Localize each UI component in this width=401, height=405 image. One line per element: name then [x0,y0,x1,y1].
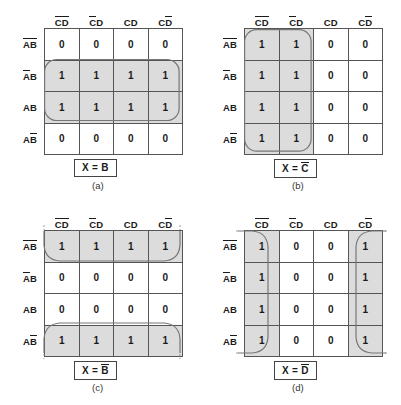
table-row: AB 1 0 0 1 [216,231,383,263]
kmap-a-cell-1-1[interactable]: 1 [79,60,114,92]
kmap-b-cell-3-3[interactable]: 0 [348,123,383,155]
kmap-a-cell-3-2[interactable]: 0 [114,123,149,155]
kmap-b-cell-1-2[interactable]: 0 [314,60,349,92]
kmap-b-col-header-2: CD [314,12,349,29]
kmap-a-cell-3-1[interactable]: 0 [79,123,114,155]
kmap-b-cell-2-2[interactable]: 0 [314,92,349,124]
kmap-d-cell-3-3[interactable]: 1 [348,325,383,357]
kmap-b-cell-3-2[interactable]: 0 [314,123,349,155]
kmap-c-cell-0-0[interactable]: 1 [45,231,80,263]
kmap-d-cell-0-3[interactable]: 1 [348,231,383,263]
kmap-a-cell-2-0[interactable]: 1 [45,92,80,124]
kmap-a-cell-0-0[interactable]: 0 [45,29,80,61]
kmap-c-header-row: CD CD CD CD [16,214,183,231]
kmap-c-cell-3-0[interactable]: 1 [45,325,80,357]
kmap-b-cell-1-1[interactable]: 1 [279,60,314,92]
kmap-d-cell-3-0[interactable]: 1 [245,325,280,357]
kmap-c-cell-0-1[interactable]: 1 [79,231,114,263]
kmap-b-row-header-0: AB [216,29,245,61]
kmap-a-cell-3-0[interactable]: 0 [45,123,80,155]
kmap-d-cell-2-0[interactable]: 1 [245,294,280,326]
kmap-d-cell-1-0[interactable]: 1 [245,262,280,294]
kmap-c-cell-2-1[interactable]: 0 [79,294,114,326]
kmap-b-cell-1-3[interactable]: 0 [348,60,383,92]
kmap-b-col-header-1: CD [279,12,314,29]
kmap-a-cell-1-2[interactable]: 1 [114,60,149,92]
kmap-a-row-header-1: AB [16,60,45,92]
kmap-d-cell-1-2[interactable]: 0 [314,262,349,294]
kmap-c-cell-1-3[interactable]: 0 [148,262,183,294]
kmap-d-cell-2-3[interactable]: 1 [348,294,383,326]
kmap-d-cell-1-3[interactable]: 1 [348,262,383,294]
kmap-block-c: CD CD CD CD AB 1 1 1 1 AB 0 0 0 0 AB 0 [0,200,200,405]
kmap-d-cell-0-0[interactable]: 1 [245,231,280,263]
kmap-c-cell-3-1[interactable]: 1 [79,325,114,357]
kmap-block-b: CD CD CD CD AB 1 1 0 0 AB 1 1 0 0 AB 1 [200,0,401,200]
kmap-c-cell-0-2[interactable]: 1 [114,231,149,263]
kmap-b-cell-0-2[interactable]: 0 [314,29,349,61]
kmap-c-cell-3-2[interactable]: 1 [114,325,149,357]
kmap-b-cell-2-0[interactable]: 1 [245,92,280,124]
kmap-d-cell-2-2[interactable]: 0 [314,294,349,326]
kmap-b-cell-0-3[interactable]: 0 [348,29,383,61]
kmap-a-cell-2-2[interactable]: 1 [114,92,149,124]
kmap-a-cell-1-3[interactable]: 1 [148,60,183,92]
table-row: AB 1 0 0 1 [216,294,383,326]
kmap-c-result-box: X = B [74,361,117,380]
kmap-a-cell-0-2[interactable]: 0 [114,29,149,61]
kmap-table-d: CD CD CD CD AB 1 0 0 1 AB 1 0 0 1 AB 1 [216,214,383,357]
kmap-c-cell-2-3[interactable]: 0 [148,294,183,326]
kmap-a-cell-0-1[interactable]: 0 [79,29,114,61]
kmap-b-row-header-3: AB [216,123,245,155]
kmap-d-caption: (d) [292,382,304,393]
table-row: AB 0 0 0 0 [16,123,183,155]
kmap-d-cell-3-1[interactable]: 0 [279,325,314,357]
kmap-b-row-header-2: AB [216,92,245,124]
table-row: AB 0 0 0 0 [16,262,183,294]
table-row: AB 0 0 0 0 [16,294,183,326]
kmap-d-row-header-1: AB [216,262,245,294]
table-row: AB 1 0 0 1 [216,262,383,294]
kmap-a-col-header-1: CD [79,12,114,29]
kmap-d-col-header-0: CD [245,214,280,231]
kmap-c-cell-1-1[interactable]: 0 [79,262,114,294]
kmap-b-result-box: X = C [274,159,317,178]
kmap-table-c: CD CD CD CD AB 1 1 1 1 AB 0 0 0 0 AB 0 [16,214,183,357]
kmap-a-cell-1-0[interactable]: 1 [45,60,80,92]
kmap-b-cell-3-1[interactable]: 1 [279,123,314,155]
kmap-b-cell-0-1[interactable]: 1 [279,29,314,61]
kmap-d-cell-2-1[interactable]: 0 [279,294,314,326]
kmap-d-cell-3-2[interactable]: 0 [314,325,349,357]
kmap-c-cell-1-2[interactable]: 0 [114,262,149,294]
kmap-a-result-box: X = B [74,159,117,177]
kmap-c-caption: (c) [92,382,103,393]
kmap-c-row-header-2: AB [16,294,45,326]
kmap-b-cell-0-0[interactable]: 1 [245,29,280,61]
kmap-d-cell-0-1[interactable]: 0 [279,231,314,263]
kmap-a-cell-3-3[interactable]: 0 [148,123,183,155]
kmap-d-row-header-3: AB [216,325,245,357]
kmap-a-cell-0-3[interactable]: 0 [148,29,183,61]
kmap-a-cell-2-1[interactable]: 1 [79,92,114,124]
table-row: AB 1 1 0 0 [216,29,383,61]
kmap-b-cell-1-0[interactable]: 1 [245,60,280,92]
kmap-block-d: CD CD CD CD AB 1 0 0 1 AB 1 0 0 1 AB 1 [200,200,401,405]
kmap-a-col-header-0: CD [45,12,80,29]
kmap-d-cell-1-1[interactable]: 0 [279,262,314,294]
kmap-c-cell-2-2[interactable]: 0 [114,294,149,326]
kmap-c-cell-1-0[interactable]: 0 [45,262,80,294]
kmap-c-cell-3-3[interactable]: 1 [148,325,183,357]
kmap-b-cell-3-0[interactable]: 1 [245,123,280,155]
kmap-c-row-header-1: AB [16,262,45,294]
kmap-a-cell-2-3[interactable]: 1 [148,92,183,124]
kmap-c-cell-0-3[interactable]: 1 [148,231,183,263]
kmap-c-col-header-0: CD [45,214,80,231]
kmap-d-cell-0-2[interactable]: 0 [314,231,349,263]
kmap-d-result-box: X = D [274,361,317,380]
kmap-c-cell-2-0[interactable]: 0 [45,294,80,326]
kmap-b-cell-2-1[interactable]: 1 [279,92,314,124]
kmap-table-b: CD CD CD CD AB 1 1 0 0 AB 1 1 0 0 AB 1 [216,12,383,155]
table-row: AB 1 1 1 1 [16,325,183,357]
kmap-b-col-header-3: CD [348,12,383,29]
kmap-b-cell-2-3[interactable]: 0 [348,92,383,124]
